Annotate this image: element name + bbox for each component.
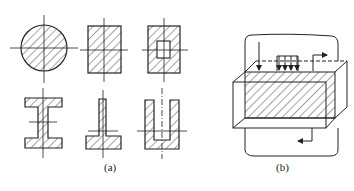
i-beam-section <box>25 88 62 158</box>
hollow-rectangle-section <box>142 18 188 82</box>
figure-a-label: (a) <box>104 161 116 173</box>
figure-b-label: (b) <box>276 161 289 173</box>
solid-circle-section <box>10 15 78 83</box>
diagram-canvas <box>0 0 354 191</box>
u-channel-section <box>137 88 187 159</box>
beam-flow-diagram <box>233 34 347 156</box>
solid-rectangle-section <box>80 18 128 82</box>
inverted-t-section <box>86 90 121 158</box>
